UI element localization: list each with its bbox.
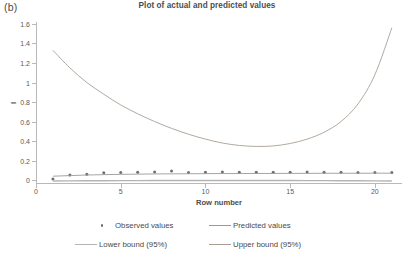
data-point: [153, 171, 156, 174]
y-axis-title: I: [9, 102, 18, 104]
legend-item[interactable]: Observed values: [89, 221, 207, 230]
series-upper-bound: [53, 28, 392, 147]
chart-legend: Observed valuesPredicted values Lower bo…: [0, 216, 414, 256]
y-tick-label: 0.8: [20, 99, 30, 106]
y-tick-label: 0.4: [20, 138, 30, 145]
y-tick-label: 1: [26, 79, 30, 86]
legend-row: Observed valuesPredicted values: [0, 216, 414, 235]
y-tick-label: 1.6: [20, 20, 30, 27]
legend-line-icon: [207, 225, 233, 226]
x-tick-label: 5: [119, 188, 123, 195]
series-lower-bound: [53, 180, 392, 181]
y-tick-label: 0.6: [20, 118, 30, 125]
legend-item[interactable]: Predicted values: [207, 221, 325, 230]
x-tick-label: 0: [34, 188, 38, 195]
legend-row: Lower bound (95%)Upper bound (95%): [0, 235, 414, 254]
y-tick-label: 1.4: [20, 40, 30, 47]
data-point: [170, 170, 173, 173]
data-point: [51, 177, 54, 180]
legend-line-icon: [207, 244, 233, 245]
x-tick-label: 20: [371, 188, 379, 195]
chart-title: Plot of actual and predicted values: [0, 1, 414, 10]
series-layer: [36, 22, 402, 184]
legend-dot-icon: [89, 224, 115, 227]
data-point: [119, 171, 122, 174]
legend-item[interactable]: Upper bound (95%): [207, 240, 341, 249]
x-tick-label: 15: [286, 188, 294, 195]
legend-label: Upper bound (95%): [233, 240, 301, 249]
plot-frame: 00.20.40.60.811.21.41.6 05101520: [36, 22, 402, 184]
x-axis-title: Row number: [36, 198, 402, 207]
y-tick-label: 0: [26, 177, 30, 184]
chart-figure: (b) Plot of actual and predicted values …: [0, 0, 414, 259]
y-tick-label: 1.2: [20, 59, 30, 66]
data-point: [102, 171, 105, 174]
x-tick-label: 10: [202, 188, 210, 195]
legend-line-icon: [73, 244, 99, 245]
legend-item[interactable]: Lower bound (95%): [73, 240, 207, 249]
plot-area: 00.20.40.60.811.21.41.6 05101520: [36, 22, 402, 184]
legend-label: Predicted values: [233, 221, 291, 230]
legend-label: Lower bound (95%): [99, 240, 167, 249]
y-tick-label: 0.2: [20, 157, 30, 164]
legend-label: Observed values: [115, 221, 174, 230]
data-point: [136, 171, 139, 174]
